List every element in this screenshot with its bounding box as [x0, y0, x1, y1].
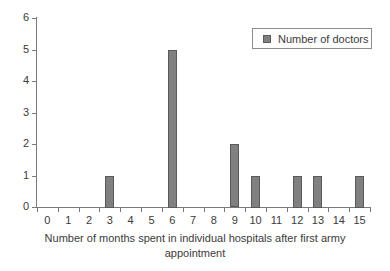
- x-axis-tick: [141, 208, 142, 212]
- y-axis-tick-label: 2: [9, 138, 29, 149]
- bar[interactable]: [168, 50, 177, 208]
- y-axis-tick-label: 5: [9, 44, 29, 55]
- x-axis-title-line-1: Number of months spent in individual hos…: [45, 232, 346, 244]
- x-axis-tick-label: 15: [348, 214, 372, 226]
- bar-chart: 0123456 0123456789101112131415 Number of…: [0, 0, 390, 271]
- y-axis-tick-label: 4: [9, 75, 29, 86]
- y-axis-tick-label: 0: [9, 201, 29, 212]
- x-axis-tick: [224, 208, 225, 212]
- bar[interactable]: [105, 176, 114, 208]
- x-axis-tick: [120, 208, 121, 212]
- x-axis-tick: [245, 208, 246, 212]
- x-axis-tick: [37, 208, 38, 212]
- bar[interactable]: [313, 176, 322, 208]
- x-axis-tick: [183, 208, 184, 212]
- x-axis-tick: [79, 208, 80, 212]
- x-axis-tick: [287, 208, 288, 212]
- legend[interactable]: Number of doctors: [252, 28, 372, 49]
- y-axis-tick-label: 1: [9, 170, 29, 181]
- y-axis-tick-label: 3: [9, 107, 29, 118]
- bar[interactable]: [293, 176, 302, 208]
- x-axis-tick: [266, 208, 267, 212]
- x-axis-title: Number of months spent in individual hos…: [20, 231, 370, 261]
- x-axis-tick: [308, 208, 309, 212]
- x-axis-tick: [162, 208, 163, 212]
- x-axis-tick: [328, 208, 329, 212]
- x-axis-tick: [204, 208, 205, 212]
- x-axis-tick: [370, 208, 371, 212]
- legend-label: Number of doctors: [278, 33, 368, 45]
- x-axis-tick: [349, 208, 350, 212]
- bar[interactable]: [230, 144, 239, 207]
- legend-swatch-icon: [263, 35, 271, 43]
- bar[interactable]: [355, 176, 364, 208]
- x-axis-title-line-2: appointment: [20, 246, 370, 261]
- bar[interactable]: [251, 176, 260, 208]
- y-axis-tick-label: 6: [9, 12, 29, 23]
- x-axis-tick: [99, 208, 100, 212]
- x-axis-tick: [58, 208, 59, 212]
